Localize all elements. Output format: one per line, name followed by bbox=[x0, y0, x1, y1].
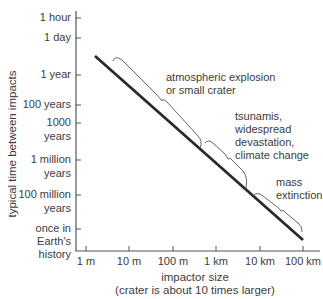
annotation-tsunamis-l1: tsunamis, bbox=[235, 110, 282, 123]
annotation-tsunamis-l4: climate change bbox=[235, 149, 309, 162]
annotation-tsunamis-l2: widespread bbox=[235, 123, 291, 136]
x-tick-10km: 10 km bbox=[238, 255, 282, 267]
annotation-atmospheric-l1: atmospheric explosion bbox=[166, 71, 275, 84]
y-tick-earth-history-l2: Earth's bbox=[10, 236, 71, 247]
x-tick-10m: 10 m bbox=[107, 255, 151, 267]
y-tick-earth-history-l1: once in bbox=[10, 223, 71, 234]
y-tick-1-hour: 1 hour bbox=[10, 12, 71, 23]
annotation-atmospheric-l2: or small crater bbox=[166, 84, 236, 97]
y-tick-1-day: 1 day bbox=[10, 32, 71, 43]
y-tick-earth-history-l3: history bbox=[10, 249, 71, 260]
x-tick-1m: 1 m bbox=[64, 255, 108, 267]
y-tick-1-year: 1 year bbox=[10, 69, 71, 80]
y-tick-1-million-l2: years bbox=[10, 168, 71, 179]
impact-frequency-chart: 1 hour 1 day 1 year 100 years 1000 years… bbox=[0, 0, 323, 299]
y-tick-100-years: 100 years bbox=[10, 99, 71, 110]
annotation-tsunamis-l3: devastation, bbox=[235, 136, 294, 149]
x-tick-100km: 100 km bbox=[281, 255, 323, 267]
y-tick-1000-years-l2: years bbox=[10, 131, 71, 142]
y-tick-1-million-l1: 1 million bbox=[10, 154, 71, 165]
annotation-mass-extinction-l1: mass bbox=[276, 176, 302, 189]
annotation-mass-extinction-l2: extinction bbox=[276, 189, 322, 202]
y-tick-100-million-l2: years bbox=[10, 203, 71, 214]
x-axis-title: impactor size bbox=[90, 271, 300, 284]
x-axis-subtitle: (crater is about 10 times larger) bbox=[90, 284, 300, 297]
y-tick-1000-years-l1: 1000 bbox=[10, 117, 71, 128]
y-axis-title: typical time between impacts bbox=[6, 54, 18, 234]
x-tick-1km: 1 km bbox=[194, 255, 238, 267]
y-ticks bbox=[76, 18, 81, 229]
x-tick-100m: 100 m bbox=[151, 255, 195, 267]
x-ticks bbox=[86, 246, 303, 251]
